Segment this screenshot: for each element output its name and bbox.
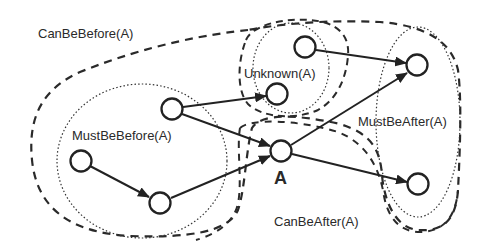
node-n5 bbox=[267, 84, 288, 105]
edge-n4-n7 bbox=[316, 50, 406, 63]
label-must-be-before: MustBeBefore(A) bbox=[72, 128, 172, 143]
node-n1 bbox=[71, 151, 92, 172]
edge-n1-n2 bbox=[90, 166, 149, 197]
edge-n2-a bbox=[171, 156, 270, 198]
node-n8 bbox=[408, 174, 429, 195]
edge-n3-n5 bbox=[183, 96, 266, 107]
label-unknown: Unknown(A) bbox=[244, 66, 316, 81]
label-can-be-after: CanBeAfter(A) bbox=[274, 214, 359, 229]
label-node-a: A bbox=[274, 168, 287, 188]
edge-n3-a bbox=[182, 114, 270, 146]
edge-a-n7 bbox=[291, 73, 407, 145]
edge-a-n8 bbox=[292, 154, 407, 182]
node-n3 bbox=[162, 99, 183, 120]
node-a bbox=[271, 141, 292, 162]
node-n2 bbox=[150, 193, 171, 214]
label-must-be-after: MustBeAfter(A) bbox=[358, 114, 447, 129]
node-n4 bbox=[295, 37, 316, 58]
diagram-svg: CanBeBefore(A) MustBeBefore(A) Unknown(A… bbox=[0, 0, 494, 252]
node-n7 bbox=[407, 55, 428, 76]
label-can-be-before: CanBeBefore(A) bbox=[38, 26, 133, 41]
diagram-canvas: CanBeBefore(A) MustBeBefore(A) Unknown(A… bbox=[0, 0, 494, 252]
